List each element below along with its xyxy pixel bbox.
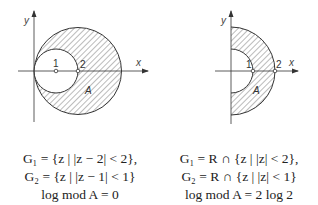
diagrams-canvas: 1 2 x y A 1 2 x y A xyxy=(0,0,318,130)
point-1-label: 1 xyxy=(53,58,59,69)
right-caption-g2: G₂ = R ∩ {z | |z| < 1} xyxy=(160,168,318,186)
y-axis-label: y xyxy=(220,15,227,26)
y-axis-label: y xyxy=(23,15,30,26)
point-2-label: 2 xyxy=(276,59,282,70)
right-caption-g1: G₁ = R ∩ {z | |z| < 2}, xyxy=(160,150,318,168)
right-caption-mod: log mod A = 2 log 2 xyxy=(160,186,318,204)
left-diagram: 1 2 x y A xyxy=(18,11,148,122)
right-caption: G₁ = R ∩ {z | |z| < 2}, G₂ = R ∩ {z | |z… xyxy=(160,150,318,204)
left-caption-mod: log mod A = 0 xyxy=(0,186,160,204)
x-axis-label: x xyxy=(288,57,295,68)
point-1 xyxy=(54,69,58,73)
x-axis-label: x xyxy=(135,57,142,68)
region-label: A xyxy=(84,85,92,96)
left-caption-g1: G₁ = {z | |z − 2| < 2}, xyxy=(0,150,160,168)
region-label: A xyxy=(252,85,260,96)
point-2-label: 2 xyxy=(80,59,86,70)
point-1-label: 1 xyxy=(246,59,252,70)
point-1 xyxy=(251,69,255,73)
left-caption-g2: G₂ = {z | |z − 1| < 1} xyxy=(0,168,160,186)
right-diagram: 1 2 x y A xyxy=(215,11,298,124)
left-caption: G₁ = {z | |z − 2| < 2}, G₂ = {z | |z − 1… xyxy=(0,150,160,204)
